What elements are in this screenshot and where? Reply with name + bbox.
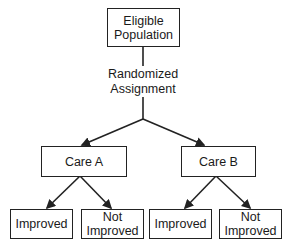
care-a-box: Care A — [41, 146, 127, 177]
care-a-improved-box: Improved — [10, 209, 73, 239]
care-b-box: Care B — [181, 146, 256, 177]
box-label: Population — [114, 28, 173, 42]
care-b-improved-box: Improved — [149, 209, 212, 239]
care-b-not-improved-box: NotImproved — [219, 209, 282, 239]
care-a-not-improved-box: NotImproved — [81, 209, 144, 239]
box-label: Care A — [65, 155, 103, 169]
box-label: Care B — [199, 155, 238, 169]
box-label: Eligible — [114, 14, 173, 28]
eligible-population-box: EligiblePopulation — [107, 8, 180, 47]
randomized-assignment-label: RandomizedAssignment — [100, 67, 186, 97]
